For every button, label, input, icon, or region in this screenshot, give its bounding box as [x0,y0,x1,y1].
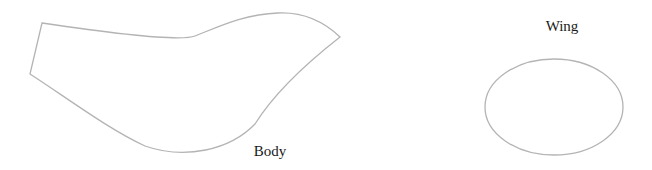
body-label: Body [254,143,287,159]
body-shape[interactable] [30,13,340,152]
wing-shape-group[interactable]: Wing [485,18,623,155]
wing-shape[interactable] [485,59,623,155]
wing-label: Wing [546,18,579,34]
body-shape-group[interactable]: Body [30,13,340,159]
diagram-canvas: Body Wing [0,0,652,170]
